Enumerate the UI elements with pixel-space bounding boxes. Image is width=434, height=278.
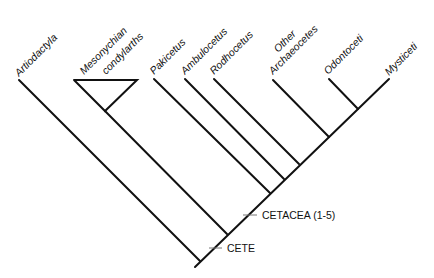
cladogram: Artiodactyla Mesonychian condylarths Pak… bbox=[0, 0, 434, 278]
label-artiodactyla: Artiodactyla bbox=[11, 31, 59, 79]
label-mysticeti: Mysticeti bbox=[382, 40, 420, 78]
branch-ambulocetus bbox=[185, 79, 284, 179]
branch-mesonychian bbox=[105, 111, 227, 234]
label-cete: CETE bbox=[227, 242, 255, 254]
label-odontoceti: Odontoceti bbox=[321, 32, 366, 77]
branch-pakicetus bbox=[154, 79, 270, 193]
mesonychian-triangle bbox=[74, 80, 137, 111]
branch-odontoceti bbox=[329, 79, 358, 109]
branch-other-archaeocetes bbox=[273, 80, 329, 137]
label-cetacea: CETACEA (1-5) bbox=[262, 209, 335, 221]
main-stem bbox=[195, 79, 389, 267]
